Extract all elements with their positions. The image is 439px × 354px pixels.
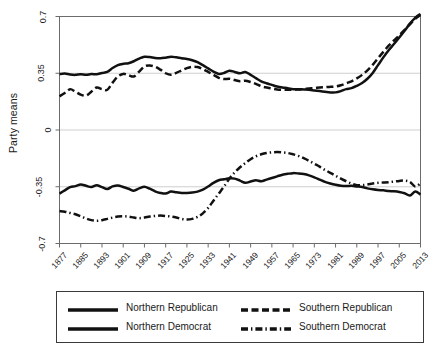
series-line-northern-democrat (60, 173, 421, 195)
legend-label: Northern Republican (126, 302, 218, 313)
chart-legend: Northern RepublicanSouthern RepublicanNo… (56, 291, 424, 343)
data-series-group (60, 14, 421, 221)
legend-entry-southern-democrat[interactable]: Southern Democrat (240, 321, 413, 333)
legend-label: Northern Democrat (126, 321, 211, 332)
legend-entry-northern-republican[interactable]: Northern Republican (67, 302, 240, 314)
legend-swatch-dashdot (240, 321, 292, 333)
legend-swatch-solid (67, 321, 119, 333)
legend-swatch-dashed (240, 302, 292, 314)
gridlines (60, 73, 421, 187)
legend-entry-northern-democrat[interactable]: Northern Democrat (67, 321, 240, 333)
party-means-chart-figure: Party means 0.70.350-0.35-0.7 1877188518… (0, 0, 439, 354)
legend-swatch-solid (67, 302, 119, 314)
legend-entry-southern-republican[interactable]: Southern Republican (240, 302, 413, 314)
legend-label: Southern Republican (299, 302, 392, 313)
axis-tick-marks (56, 17, 421, 248)
series-line-southern-republican (60, 15, 421, 96)
legend-label: Southern Democrat (299, 321, 386, 332)
